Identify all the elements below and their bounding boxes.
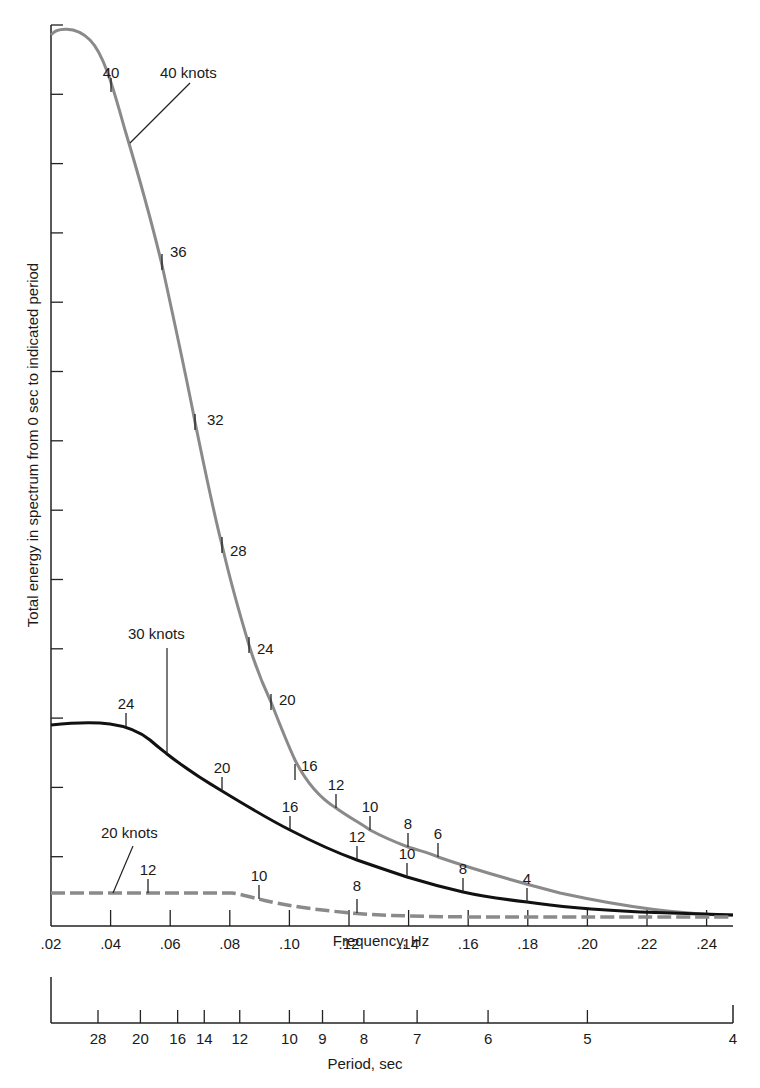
period-mark-label: 16 xyxy=(282,798,299,815)
period-mark-label: 6 xyxy=(434,825,442,842)
period-mark-label: 20 xyxy=(279,691,296,708)
period-mark-label: 10 xyxy=(399,845,416,862)
period-tick-label: 5 xyxy=(583,1030,591,1047)
period-mark-label: 8 xyxy=(459,860,467,877)
period-mark-label: 12 xyxy=(140,861,157,878)
period-mark-label: 8 xyxy=(404,815,412,832)
period-tick-label: 14 xyxy=(196,1030,213,1047)
x-tick-label: .04 xyxy=(100,935,121,952)
period-tick-label: 20 xyxy=(132,1030,149,1047)
period-mark-label: 8 xyxy=(353,877,361,894)
y-axis-title: Total energy in spectrum from 0 sec to i… xyxy=(24,263,41,627)
x-tick-label: .22 xyxy=(637,935,658,952)
period-mark-label: 40 xyxy=(103,64,120,81)
period-tick-label: 6 xyxy=(484,1030,492,1047)
x-tick-label: .20 xyxy=(577,935,598,952)
label-20-knots: 20 knots xyxy=(101,824,158,893)
period-tick-label: 12 xyxy=(231,1030,248,1047)
label-30-knots: 30 knots xyxy=(128,625,185,754)
x-tick-label: .08 xyxy=(219,935,240,952)
period-mark-label: 24 xyxy=(118,695,135,712)
svg-text:40 knots: 40 knots xyxy=(160,64,217,81)
y-axis-ticks xyxy=(51,25,63,857)
svg-text:20 knots: 20 knots xyxy=(101,824,158,841)
x-tick-label: .10 xyxy=(279,935,300,952)
period-tick-label: 9 xyxy=(318,1030,326,1047)
period-mark-label: 10 xyxy=(362,798,379,815)
period-tick-label: 4 xyxy=(729,1030,737,1047)
period-mark-label: 24 xyxy=(257,640,274,657)
period-mark-label: 12 xyxy=(349,828,366,845)
period-mark-label: 20 xyxy=(214,759,231,776)
period-tick-label: 28 xyxy=(90,1030,107,1047)
x-tick-label: .02 xyxy=(41,935,62,952)
svg-text:30 knots: 30 knots xyxy=(128,625,185,642)
period-mark-label: 12 xyxy=(328,776,345,793)
period-axis-ticks: 282016141210987654 xyxy=(90,1010,738,1047)
x-tick-label: .06 xyxy=(160,935,181,952)
chart-canvas: .02.04.06.08.10.12.14.16.18.20.22.24 282… xyxy=(0,0,760,1088)
curve-30-knots xyxy=(51,723,733,915)
period-tick-label: 8 xyxy=(360,1030,368,1047)
x-tick-label: .18 xyxy=(517,935,538,952)
period-tick-label: 7 xyxy=(413,1030,421,1047)
curve-40-knots xyxy=(51,29,733,915)
period-mark-label: 36 xyxy=(170,243,187,260)
period-mark-label: 32 xyxy=(207,411,224,428)
y-axis xyxy=(51,25,63,926)
period-mark-label: 28 xyxy=(230,542,247,559)
period-marks: 4036322824201612108624201612108412108 xyxy=(103,64,532,913)
x-axis-title: Frequency, Hz xyxy=(333,932,429,949)
period-tick-label: 10 xyxy=(281,1030,298,1047)
period-tick-label: 16 xyxy=(169,1030,186,1047)
period-axis: 282016141210987654 xyxy=(51,977,737,1047)
period-mark-label: 10 xyxy=(251,867,268,884)
period-axis-title: Period, sec xyxy=(327,1055,403,1072)
x-tick-label: .24 xyxy=(696,935,717,952)
period-mark-label: 16 xyxy=(301,757,318,774)
label-40-knots: 40 knots xyxy=(130,64,217,143)
x-tick-label: .16 xyxy=(458,935,479,952)
period-mark-label: 4 xyxy=(523,870,531,887)
